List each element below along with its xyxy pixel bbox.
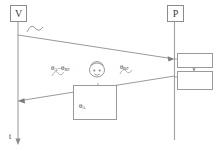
node-v-text: V [15,8,22,19]
person-head-icon [90,62,105,78]
time-arrowhead [15,139,20,146]
forward-signal-line [18,35,171,59]
theta-a-sub: A [82,105,85,110]
theta-difference-label: θA–θRF [51,65,70,72]
theta-rf-sub: RF [123,66,128,71]
theta-rf-label: θRF [120,64,129,71]
sine-wave-icon [27,26,43,32]
theta-diff-sub-rf: RF [64,67,69,72]
forward-arrowhead [168,56,175,61]
theta-diff-wave-icon [52,72,64,76]
node-label-p[interactable]: P [167,5,184,22]
clock-output-box[interactable] [177,71,213,90]
diagram-canvas: V P θA–θRF θRF θA t [0,0,219,151]
theta-a-label: θA [79,103,86,110]
rf-conversion-box[interactable] [177,53,213,68]
return-arrowhead [18,98,26,103]
node-label-v[interactable]: V [10,5,27,22]
node-p-text: P [173,8,179,19]
time-axis-label: t [9,133,11,141]
